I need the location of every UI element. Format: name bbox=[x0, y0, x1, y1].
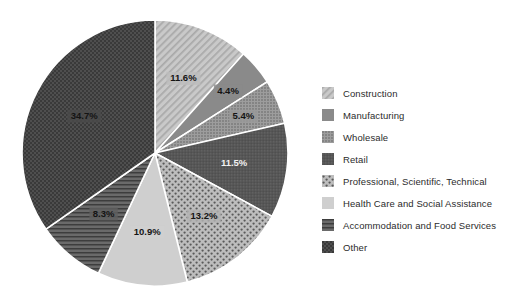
legend-swatch-icon bbox=[322, 109, 334, 121]
legend-swatch-icon bbox=[322, 153, 334, 165]
legend-item[interactable]: Retail bbox=[322, 148, 522, 170]
pie-slice-value-label: 10.9% bbox=[134, 226, 161, 237]
legend-item-label: Professional, Scientific, Technical bbox=[343, 176, 487, 187]
legend-item[interactable]: Accommodation and Food Services bbox=[322, 214, 522, 236]
pie-slice-value-label: 5.4% bbox=[233, 110, 255, 121]
legend-item-label: Retail bbox=[343, 154, 368, 165]
legend-item-label: Construction bbox=[343, 88, 398, 99]
legend-item[interactable]: Wholesale bbox=[322, 126, 522, 148]
pie-slice-value-label: 13.2% bbox=[190, 210, 217, 221]
legend-item[interactable]: Manufacturing bbox=[322, 104, 522, 126]
legend-item[interactable]: Construction bbox=[322, 82, 522, 104]
legend-item-label: Manufacturing bbox=[343, 110, 405, 121]
pie-slice-value-label: 8.3% bbox=[93, 208, 115, 219]
pie-chart: 11.6%4.4%5.4%11.5%13.2%10.9%8.3%34.7% bbox=[0, 0, 310, 304]
pie-slice-value-label: 34.7% bbox=[71, 110, 98, 121]
legend-item[interactable]: Health Care and Social Assistance bbox=[322, 192, 522, 214]
legend-swatch-icon bbox=[322, 87, 334, 99]
chart-legend: ConstructionManufacturingWholesaleRetail… bbox=[322, 82, 522, 258]
pie-slices bbox=[22, 20, 288, 286]
legend-item-label: Other bbox=[343, 242, 367, 253]
legend-swatch-icon bbox=[322, 219, 334, 231]
pie-slice-value-label: 11.5% bbox=[221, 157, 248, 168]
legend-swatch-icon bbox=[322, 175, 334, 187]
legend-item[interactable]: Professional, Scientific, Technical bbox=[322, 170, 522, 192]
legend-item-label: Wholesale bbox=[343, 132, 388, 143]
legend-swatch-icon bbox=[322, 241, 334, 253]
legend-item-label: Accommodation and Food Services bbox=[343, 220, 496, 231]
legend-item-label: Health Care and Social Assistance bbox=[343, 198, 492, 209]
chart-page: 11.6%4.4%5.4%11.5%13.2%10.9%8.3%34.7% Co… bbox=[0, 0, 525, 304]
legend-item[interactable]: Other bbox=[322, 236, 522, 258]
pie-chart-svg: 11.6%4.4%5.4%11.5%13.2%10.9%8.3%34.7% bbox=[0, 0, 310, 304]
pie-slice-value-label: 4.4% bbox=[217, 85, 239, 96]
pie-slice-value-label: 11.6% bbox=[170, 72, 197, 83]
legend-swatch-icon bbox=[322, 197, 334, 209]
legend-swatch-icon bbox=[322, 131, 334, 143]
